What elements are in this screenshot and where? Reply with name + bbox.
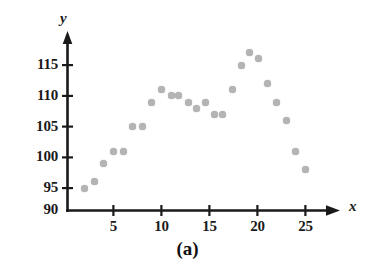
data-point [193, 105, 200, 112]
data-point [185, 99, 192, 106]
data-point [211, 111, 218, 118]
data-point [175, 92, 182, 99]
data-point [168, 92, 175, 99]
data-point [129, 123, 136, 130]
data-point [148, 99, 155, 106]
data-point [219, 111, 226, 118]
data-point [91, 178, 98, 185]
data-point [110, 148, 117, 155]
scatter-plot-figure: 115 110 105 100 95 90 5 10 15 20 25 y x … [0, 0, 375, 277]
data-point [100, 160, 107, 167]
data-point [273, 99, 280, 106]
data-point [139, 123, 146, 130]
data-point [229, 86, 236, 93]
data-point [255, 55, 262, 62]
data-point [246, 49, 253, 56]
data-point [292, 148, 299, 155]
data-point [264, 80, 271, 87]
data-point-layer [0, 0, 375, 277]
data-point [283, 117, 290, 124]
data-point [202, 99, 209, 106]
data-point [81, 185, 88, 192]
figure-caption: (a) [0, 238, 375, 260]
data-point [238, 62, 245, 69]
data-point [158, 86, 165, 93]
data-point [302, 166, 309, 173]
data-point [120, 148, 127, 155]
